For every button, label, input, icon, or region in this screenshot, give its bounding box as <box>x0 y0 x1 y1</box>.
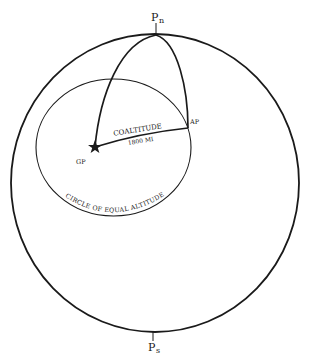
circle-of-equal-altitude <box>36 79 191 216</box>
navigation-diagram: Pn Ps GP AP COALTITUDE 1800 MI CIRCLE OF… <box>0 0 309 362</box>
ap-label: AP <box>189 118 200 126</box>
circle-of-equal-altitude-label: CIRCLE OF EQUAL ALTITUDE <box>64 190 165 214</box>
earth-outer-circle <box>11 34 299 332</box>
north-pole-label: Pn <box>151 11 164 25</box>
south-pole-label: Ps <box>148 341 160 355</box>
gp-label: GP <box>76 158 86 166</box>
diagram-stage: Pn Ps GP AP COALTITUDE 1800 MI CIRCLE OF… <box>0 0 309 362</box>
star-icon <box>88 140 102 153</box>
meridian-arc-ap <box>156 35 188 128</box>
